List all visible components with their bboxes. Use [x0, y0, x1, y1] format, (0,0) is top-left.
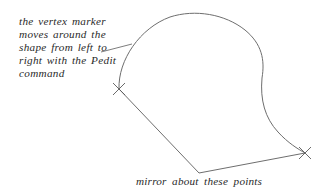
x-marker-right-icon: [299, 147, 311, 159]
mirror-caption: mirror about these points: [136, 175, 262, 188]
note-line-3: shape from left to: [19, 41, 119, 54]
vertex-marker-note: the vertex marker moves around the shape…: [19, 15, 119, 80]
note-line-4: right with the Pedit: [19, 54, 119, 67]
note-line-2: moves around the: [19, 28, 119, 41]
curved-shape-outline: [119, 13, 305, 153]
note-line-1: the vertex marker: [19, 15, 119, 28]
note-line-5: command: [19, 67, 119, 80]
